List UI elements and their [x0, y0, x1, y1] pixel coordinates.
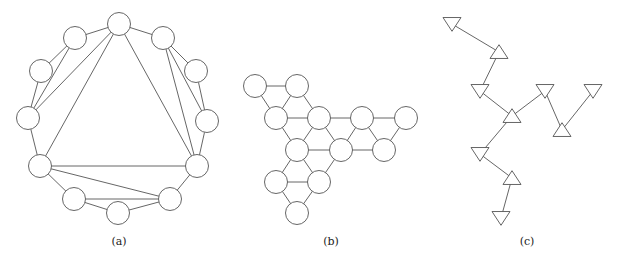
graph-edge	[545, 91, 562, 130]
graph-node-triangle-up	[553, 123, 571, 137]
graph-edge	[480, 91, 512, 116]
graph-node-circle	[330, 139, 353, 162]
graph-node-circle	[107, 202, 130, 225]
graph-edge	[512, 91, 545, 116]
panel-a-ring-graph	[17, 13, 219, 225]
caption-c: (c)	[520, 235, 535, 248]
graph-node-circle	[159, 188, 182, 211]
graph-edge	[562, 91, 593, 130]
panel-b-triangular-lattice-graph	[244, 75, 418, 225]
graph-node-triangle-down	[492, 212, 510, 226]
graph-node-circle	[308, 171, 331, 194]
graph-node-circle	[308, 107, 331, 130]
graph-node-circle	[185, 60, 208, 83]
graph-edge	[452, 24, 499, 52]
graph-node-triangle-down	[584, 85, 602, 99]
caption-a: (a)	[111, 235, 126, 248]
graph-node-circle	[395, 107, 418, 130]
graph-node-circle	[64, 27, 87, 50]
graph-node-circle	[286, 75, 309, 98]
graph-node-circle	[244, 75, 267, 98]
graph-node-circle	[373, 139, 396, 162]
graph-figure: (a) (b) (c)	[0, 0, 618, 259]
graph-node-circle	[265, 107, 288, 130]
graph-node-circle	[196, 110, 219, 133]
graph-node-circle	[152, 27, 175, 50]
panel-c-tree-graph	[443, 18, 602, 226]
graph-node-triangle-up	[490, 45, 508, 59]
caption-b: (b)	[323, 235, 339, 248]
graph-node-triangle-down	[443, 18, 461, 32]
graph-edge	[163, 38, 197, 166]
graph-node-circle	[286, 202, 309, 225]
graph-node-circle	[30, 60, 53, 83]
graph-node-circle	[29, 155, 52, 178]
graph-edge	[40, 166, 170, 199]
graph-node-circle	[63, 188, 86, 211]
graph-edge	[480, 154, 512, 178]
graph-node-circle	[17, 107, 40, 130]
graph-node-circle	[265, 171, 288, 194]
graph-node-circle	[108, 13, 131, 36]
graph-node-circle	[186, 155, 209, 178]
graph-node-circle	[286, 139, 309, 162]
graph-node-circle	[351, 107, 374, 130]
